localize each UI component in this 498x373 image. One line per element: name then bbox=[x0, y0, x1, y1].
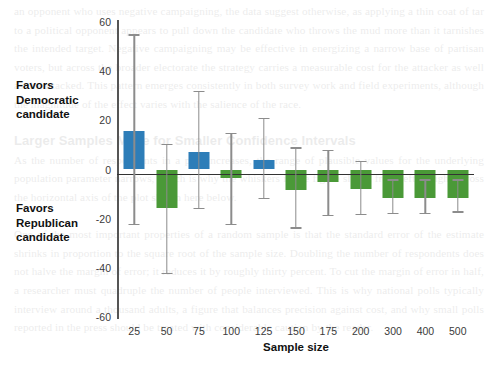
bar-group[interactable]: 100 bbox=[215, 22, 247, 317]
x-tick-label: 500 bbox=[449, 325, 467, 337]
bar-group[interactable]: 400 bbox=[409, 22, 441, 317]
error-bar-cap-lower bbox=[129, 224, 140, 225]
plot-area: 255075100125150175200300400500 bbox=[118, 22, 474, 317]
error-bar bbox=[231, 133, 232, 224]
error-bar-cap-lower bbox=[323, 215, 334, 216]
x-tick-label: 200 bbox=[352, 325, 370, 337]
error-bar-cap-upper bbox=[355, 161, 366, 162]
error-bar-cap-lower bbox=[226, 224, 237, 225]
error-bar-cap-upper bbox=[193, 91, 204, 92]
x-tick-label: 150 bbox=[287, 325, 305, 337]
error-bar-cap-lower bbox=[388, 213, 399, 214]
bar-chart: Favors Democratic candidate Favors Repub… bbox=[0, 0, 498, 373]
error-bar bbox=[360, 161, 361, 214]
error-bar-cap-lower bbox=[193, 208, 204, 209]
error-bar-cap-upper bbox=[129, 34, 140, 35]
annotation-line: candidate bbox=[16, 107, 112, 122]
error-bar-cap-lower bbox=[420, 213, 431, 214]
y-axis-line bbox=[117, 20, 119, 319]
bar-group[interactable]: 50 bbox=[150, 22, 182, 317]
error-bar-cap-upper bbox=[452, 179, 463, 180]
error-bar bbox=[263, 118, 264, 198]
y-tick-label: 20 bbox=[99, 114, 111, 126]
error-bar bbox=[425, 179, 426, 212]
y-tick-label: 0 bbox=[105, 164, 111, 176]
x-tick-label: 400 bbox=[417, 325, 435, 337]
x-tick-label: 50 bbox=[161, 325, 173, 337]
error-bar bbox=[457, 179, 458, 211]
bar-group[interactable]: 300 bbox=[377, 22, 409, 317]
y-tick-label: -40 bbox=[96, 262, 111, 274]
error-bar bbox=[166, 144, 167, 273]
annotation-favors-democratic: Favors Democratic candidate bbox=[16, 78, 112, 122]
error-bar-cap-lower bbox=[355, 214, 366, 215]
annotation-line: Democratic bbox=[16, 93, 112, 108]
error-bar-cap-lower bbox=[452, 211, 463, 212]
error-bar-cap-upper bbox=[290, 147, 301, 148]
error-bar bbox=[328, 150, 329, 215]
x-tick-label: 175 bbox=[320, 325, 338, 337]
y-tick-label: 40 bbox=[99, 65, 111, 77]
x-tick-label: 100 bbox=[222, 325, 240, 337]
error-bar bbox=[392, 179, 393, 212]
error-bar-cap-lower bbox=[290, 227, 301, 228]
error-bar-cap-upper bbox=[420, 179, 431, 180]
bar-group[interactable]: 150 bbox=[280, 22, 312, 317]
error-bar-cap-upper bbox=[323, 150, 334, 151]
error-bar-cap-upper bbox=[226, 133, 237, 134]
error-bar-cap-upper bbox=[388, 179, 399, 180]
x-tick-label: 300 bbox=[384, 325, 402, 337]
annotation-line: Favors bbox=[16, 78, 112, 93]
error-bar-cap-lower bbox=[258, 198, 269, 199]
annotation-line: candidate bbox=[16, 230, 112, 245]
x-tick-label: 25 bbox=[128, 325, 140, 337]
y-tick-label: -60 bbox=[96, 311, 111, 323]
bar-group[interactable]: 200 bbox=[345, 22, 377, 317]
x-axis-title: Sample size bbox=[118, 341, 474, 353]
error-bar-cap-upper bbox=[161, 144, 172, 145]
bar-group[interactable]: 500 bbox=[442, 22, 474, 317]
bar-group[interactable]: 25 bbox=[118, 22, 150, 317]
error-bar-cap-lower bbox=[161, 273, 172, 274]
x-tick-label: 75 bbox=[193, 325, 205, 337]
bar-group[interactable]: 75 bbox=[183, 22, 215, 317]
error-bar bbox=[133, 34, 134, 223]
bar-group[interactable]: 125 bbox=[247, 22, 279, 317]
x-tick-label: 125 bbox=[255, 325, 273, 337]
y-tick-label: 60 bbox=[99, 16, 111, 28]
error-bar bbox=[198, 91, 199, 208]
error-bar bbox=[295, 147, 296, 227]
error-bar-cap-upper bbox=[258, 118, 269, 119]
bar-group[interactable]: 175 bbox=[312, 22, 344, 317]
y-tick-label: -20 bbox=[96, 213, 111, 225]
